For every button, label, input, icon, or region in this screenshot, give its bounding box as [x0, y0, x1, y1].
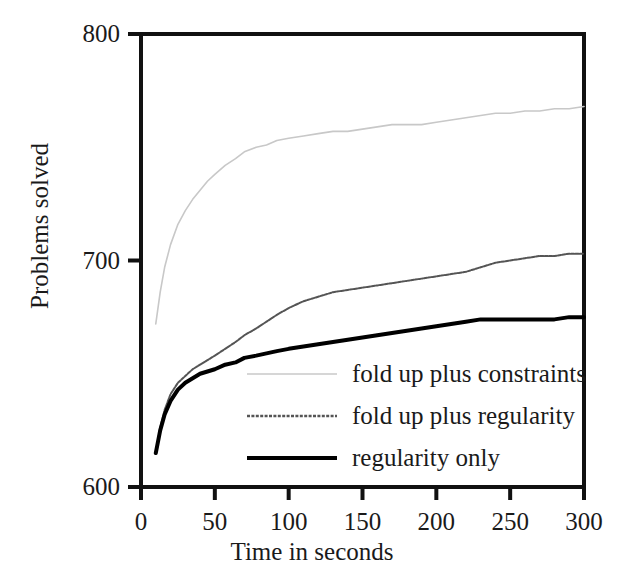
legend-label-1: fold up plus regularity — [352, 403, 575, 428]
x-tick-label: 300 — [539, 509, 624, 534]
legend-label-2: regularity only — [352, 445, 500, 470]
legend-swatches — [247, 374, 337, 458]
chart-figure: 600700800 050100150200250300 fold up plu… — [0, 0, 624, 587]
legend-label-0: fold up plus constraints — [352, 361, 586, 386]
x-axis-title: Time in seconds — [0, 538, 624, 566]
series-line-0 — [156, 106, 584, 323]
y-axis-title: Problems solved — [26, 126, 54, 326]
y-tick-label: 600 — [30, 474, 120, 499]
y-tick-label: 800 — [30, 21, 120, 46]
